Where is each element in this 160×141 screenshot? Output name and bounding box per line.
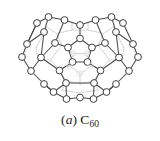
atom	[116, 54, 123, 61]
caption-close-paren: )	[73, 112, 78, 127]
molecule-illustration	[0, 0, 160, 112]
atom	[135, 54, 142, 61]
atom	[77, 22, 84, 29]
atom	[41, 81, 48, 88]
atom	[19, 54, 26, 61]
figure-caption: (a)C60	[0, 112, 160, 129]
atom	[103, 89, 110, 96]
atom	[63, 96, 70, 103]
atom	[97, 67, 104, 74]
atom	[50, 89, 57, 96]
atom	[84, 59, 91, 66]
atom	[108, 14, 115, 21]
atom	[92, 17, 99, 24]
atom	[91, 80, 98, 87]
atom	[77, 94, 84, 101]
atom	[41, 29, 48, 36]
caption-index: a	[66, 112, 73, 127]
atom	[38, 54, 45, 61]
atom	[63, 80, 70, 87]
atom	[61, 17, 68, 24]
atom	[102, 40, 109, 47]
atom	[65, 44, 72, 51]
atom	[89, 44, 96, 51]
atom	[56, 67, 63, 74]
rear-atoms-group	[67, 51, 93, 76]
atom	[69, 59, 76, 66]
atom	[120, 20, 127, 27]
atom	[52, 40, 59, 47]
atom	[45, 14, 52, 21]
caption-subscript: 60	[90, 119, 100, 129]
atom	[28, 68, 35, 75]
atom	[126, 68, 133, 75]
c60-molecule-svg	[0, 0, 160, 112]
atom	[34, 20, 41, 27]
atom	[90, 96, 97, 103]
figure-c60: (a)C60	[0, 0, 160, 141]
atom	[77, 35, 84, 42]
atom	[130, 41, 137, 48]
atoms-group	[19, 14, 142, 103]
atom	[24, 41, 31, 48]
caption-element-symbol: C	[80, 112, 89, 127]
atom	[113, 29, 120, 36]
atom	[113, 81, 120, 88]
